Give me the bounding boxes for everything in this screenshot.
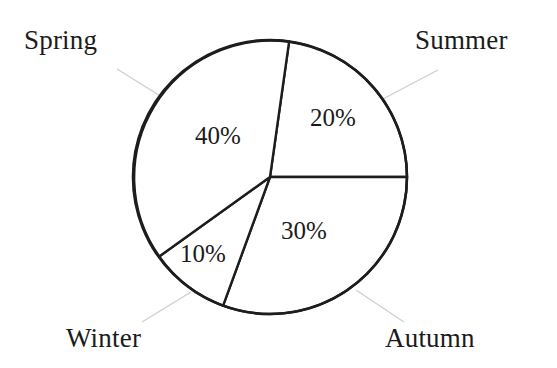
pie-value-spring: 40% [195,123,241,148]
pie-chart-graphic [0,0,557,368]
pie-value-winter: 10% [180,241,226,266]
pie-value-summer: 20% [310,105,356,130]
leader-line-autumn [356,290,404,322]
pie-chart-figure: Spring Summer Winter Autumn 40% 20% 30% … [0,0,557,368]
leader-line-summer [381,70,438,100]
pie-label-spring: Spring [24,27,97,54]
pie-label-winter: Winter [66,325,141,352]
pie-value-autumn: 30% [281,218,327,243]
pie-label-summer: Summer [415,27,508,54]
pie-label-autumn: Autumn [385,325,475,352]
leader-line-winter [142,292,191,322]
